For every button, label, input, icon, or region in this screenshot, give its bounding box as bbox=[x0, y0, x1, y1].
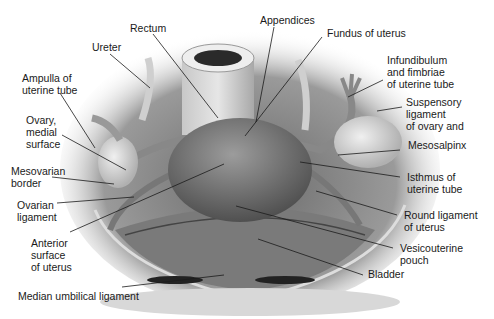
left-ovary bbox=[98, 136, 138, 188]
right-ovary bbox=[334, 116, 402, 168]
label-rectum: Rectum bbox=[130, 22, 166, 34]
label-appendices: Appendices bbox=[260, 14, 315, 26]
label-ovarian-lig: Ovarian ligament bbox=[17, 199, 57, 223]
label-fundus: Fundus of uterus bbox=[327, 27, 406, 39]
label-ureter: Ureter bbox=[92, 41, 121, 53]
label-mesovarian: Mesovarian border bbox=[11, 165, 65, 189]
label-vesicouterine: Vesicouterine pouch bbox=[400, 242, 463, 266]
label-round-lig: Round ligament of uterus bbox=[404, 209, 478, 233]
label-bladder: Bladder bbox=[368, 268, 404, 280]
label-infundibulum: Infundibulum and fimbriae of uterine tub… bbox=[387, 54, 454, 90]
label-median-umb: Median umbilical ligament bbox=[18, 290, 139, 302]
label-ampulla: Ampulla of uterine tube bbox=[22, 72, 77, 96]
label-mesosalpinx: Mesosalpinx bbox=[408, 139, 466, 151]
illustration bbox=[0, 0, 494, 319]
uterus-shape bbox=[168, 118, 312, 222]
label-ovary: Ovary, medial surface bbox=[26, 114, 60, 150]
label-anterior: Anterior surface of uterus bbox=[31, 237, 72, 273]
label-suspensory: Suspensory ligament of ovary and bbox=[406, 96, 464, 132]
label-isthmus: Isthmus of uterine tube bbox=[407, 171, 462, 195]
anatomy-figure: RectumAppendicesFundus of uterusUreterIn… bbox=[0, 0, 494, 319]
